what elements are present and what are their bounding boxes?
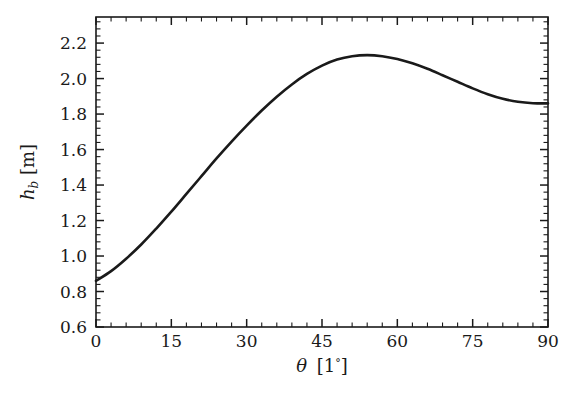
x-tick-label: 75	[462, 331, 484, 351]
y-tick-label: 0.6	[60, 317, 87, 337]
y-axis-tick-labels: 0.60.81.01.21.41.61.82.02.2	[60, 33, 87, 337]
x-tick-label: 45	[311, 331, 333, 351]
figure-container: 0153045607590 0.60.81.01.21.41.61.82.02.…	[0, 0, 587, 393]
y-tick-label: 1.2	[60, 211, 87, 231]
x-tick-label: 60	[387, 331, 409, 351]
y-tick-label: 2.0	[60, 69, 87, 89]
y-tick-label: 0.8	[60, 282, 87, 302]
x-tick-label: 90	[537, 331, 559, 351]
y-tick-label: 1.8	[60, 104, 87, 124]
y-tick-label: 1.4	[60, 175, 87, 195]
svg-text:θ [1°]: θ [1°]	[296, 355, 348, 376]
y-axis-title: hb [m]	[17, 144, 41, 200]
x-tick-label: 15	[161, 331, 183, 351]
y-tick-label: 1.6	[60, 140, 87, 160]
line-chart: 0153045607590 0.60.81.01.21.41.61.82.02.…	[0, 0, 587, 393]
x-axis-title: θ [1°]	[296, 355, 348, 376]
y-axis-symbol: h	[17, 188, 38, 200]
svg-text:hb [m]: hb [m]	[17, 144, 41, 200]
x-tick-label: 0	[91, 331, 102, 351]
y-tick-label: 1.0	[60, 246, 87, 266]
y-tick-label: 2.2	[60, 33, 87, 53]
x-tick-label: 30	[236, 331, 258, 351]
chart-background	[0, 0, 587, 393]
x-axis-symbol: θ	[296, 355, 307, 376]
